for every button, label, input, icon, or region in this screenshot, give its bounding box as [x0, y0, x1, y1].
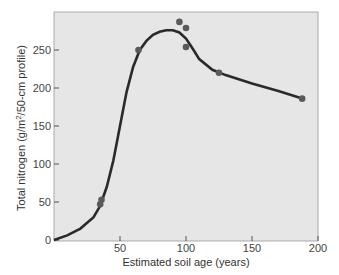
y-tick-label: 0 — [45, 234, 51, 246]
x-tick-label: 100 — [177, 242, 195, 254]
data-point — [183, 44, 190, 51]
data-point — [299, 95, 306, 102]
data-point — [135, 47, 142, 54]
data-point — [216, 70, 223, 77]
y-tick-label: 150 — [33, 120, 51, 132]
y-tick-label: 250 — [33, 44, 51, 56]
x-tick-label: 50 — [114, 242, 126, 254]
y-axis-label: Total nitrogen (g/m2/50-cm profile) — [14, 45, 27, 211]
y-tick-label: 200 — [33, 82, 51, 94]
data-point — [176, 19, 183, 26]
y-tick-label: 50 — [39, 196, 51, 208]
data-point — [98, 196, 105, 203]
data-point — [183, 25, 190, 32]
x-tick-label: 150 — [243, 242, 261, 254]
x-tick-label: 200 — [309, 242, 327, 254]
y-tick-label: 100 — [33, 158, 51, 170]
x-axis-label: Estimated soil age (years) — [122, 256, 249, 268]
chart: 050100150200250 50100150200 Estimated so… — [0, 0, 339, 275]
